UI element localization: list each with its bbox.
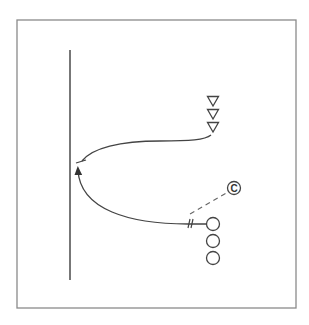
attacker-circle-icon	[207, 252, 220, 265]
attacker-circle-icon	[207, 218, 220, 231]
defender-group	[208, 97, 219, 133]
coach-icon: C	[228, 182, 241, 195]
defender-stop-tick	[76, 160, 86, 163]
defender-triangle-icon	[208, 110, 219, 120]
attacker-circle-icon	[207, 235, 220, 248]
attacker-run-path	[78, 170, 207, 224]
pass-line-dashed	[190, 192, 228, 214]
drill-diagram: C	[0, 0, 309, 325]
defender-triangle-icon	[208, 97, 219, 107]
coach-label: C	[230, 183, 237, 194]
defender-run-path	[82, 135, 211, 161]
attacker-group	[207, 218, 220, 265]
defender-triangle-icon	[208, 123, 219, 133]
diagram-frame	[17, 20, 296, 308]
